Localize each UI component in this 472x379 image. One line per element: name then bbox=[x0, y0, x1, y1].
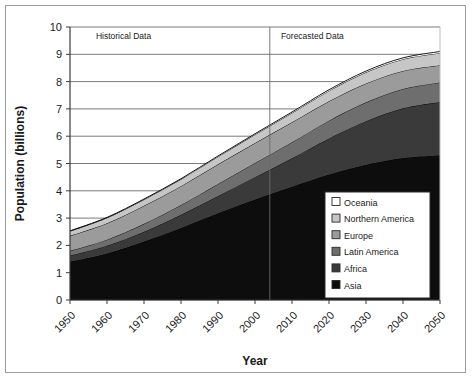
legend-label-oceania: Oceania bbox=[344, 198, 378, 208]
y-tick-label-6: 6 bbox=[56, 130, 62, 142]
legend-swatch-europe bbox=[332, 231, 340, 239]
legend-label-latin-america: Latin America bbox=[344, 247, 399, 257]
x-tick-label-2000: 2000 bbox=[237, 309, 263, 335]
legend-swatch-africa bbox=[332, 264, 340, 272]
x-tick-label-2050: 2050 bbox=[422, 309, 448, 335]
y-tick-label-10: 10 bbox=[50, 21, 62, 33]
x-axis-title: Year bbox=[242, 354, 268, 368]
legend-label-northern-america: Northern America bbox=[344, 214, 414, 224]
x-tick-label-1990: 1990 bbox=[200, 309, 226, 335]
y-tick-label-4: 4 bbox=[56, 185, 62, 197]
chart-figure: 0123456789101950196019701980199020002010… bbox=[0, 0, 472, 379]
y-tick-label-9: 9 bbox=[56, 48, 62, 60]
x-tick-label-2030: 2030 bbox=[348, 309, 374, 335]
stacked-area-chart: 0123456789101950196019701980199020002010… bbox=[0, 0, 472, 379]
y-axis: 012345678910 bbox=[50, 21, 70, 306]
legend-swatch-oceania bbox=[332, 198, 340, 206]
x-tick-label-2020: 2020 bbox=[311, 309, 337, 335]
x-tick-label-1960: 1960 bbox=[89, 309, 115, 335]
y-axis-title: Population (billions) bbox=[13, 106, 27, 221]
x-tick-label-2040: 2040 bbox=[385, 309, 411, 335]
legend: OceaniaNorthern AmericaEuropeLatin Ameri… bbox=[325, 192, 430, 298]
legend-swatch-northern-america bbox=[332, 214, 340, 222]
y-tick-label-7: 7 bbox=[56, 103, 62, 115]
x-axis: 1950196019701980199020002010202020302040… bbox=[52, 300, 448, 335]
legend-box bbox=[325, 192, 430, 298]
annotation-forecast: Forecasted Data bbox=[281, 31, 344, 41]
legend-label-africa: Africa bbox=[344, 264, 367, 274]
legend-item-northern-america[interactable]: Northern America bbox=[332, 214, 414, 224]
y-tick-label-2: 2 bbox=[56, 239, 62, 251]
legend-swatch-latin-america bbox=[332, 247, 340, 255]
x-tick-label-1950: 1950 bbox=[52, 309, 78, 335]
y-tick-label-0: 0 bbox=[56, 294, 62, 306]
legend-label-europe: Europe bbox=[344, 231, 373, 241]
annotation-historical: Historical Data bbox=[96, 31, 152, 41]
x-tick-label-1980: 1980 bbox=[163, 309, 189, 335]
legend-swatch-asia bbox=[332, 281, 340, 289]
legend-label-asia: Asia bbox=[344, 281, 362, 291]
y-tick-label-8: 8 bbox=[56, 76, 62, 88]
y-tick-label-1: 1 bbox=[56, 267, 62, 279]
y-tick-label-5: 5 bbox=[56, 158, 62, 170]
y-tick-label-3: 3 bbox=[56, 212, 62, 224]
x-tick-label-1970: 1970 bbox=[126, 309, 152, 335]
x-tick-label-2010: 2010 bbox=[274, 309, 300, 335]
